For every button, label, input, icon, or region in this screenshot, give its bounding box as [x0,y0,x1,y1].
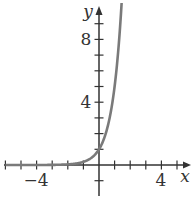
x-tick-label-4: 4 [156,170,167,190]
exponential-curve [5,3,121,165]
x-tick-label-neg4: −4 [23,170,48,190]
y-axis-label: y [82,1,93,21]
x-axis-label: x [180,166,190,186]
exponential-chart: −4 4 4 8 x y [0,0,191,205]
y-tick-label-4: 4 [81,92,92,112]
y-tick-label-8: 8 [81,29,92,49]
y-axis-arrow-icon [96,6,103,15]
